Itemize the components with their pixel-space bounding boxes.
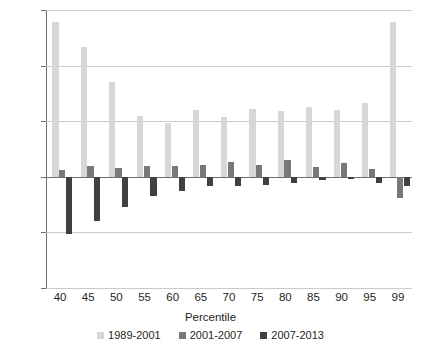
bar	[284, 160, 290, 177]
legend-item[interactable]: 2001-2007	[179, 330, 243, 341]
gridline--50	[46, 232, 412, 233]
bar	[362, 103, 368, 176]
bar	[200, 165, 206, 177]
bar	[228, 162, 234, 176]
x-tick-label: 85	[299, 291, 327, 303]
bar	[249, 109, 255, 177]
bar	[256, 165, 262, 177]
gridline--100	[46, 288, 412, 289]
bar	[87, 166, 93, 177]
bar	[235, 177, 241, 186]
x-tick-label: 60	[159, 291, 187, 303]
gridline-50	[46, 121, 412, 122]
bar	[319, 177, 325, 180]
x-tick-label: 55	[131, 291, 159, 303]
x-tick-label: 90	[328, 291, 356, 303]
bar	[369, 169, 375, 177]
bar	[334, 110, 340, 177]
bar	[306, 107, 312, 177]
legend-swatch-icon	[179, 332, 186, 339]
x-tick-label: 65	[187, 291, 215, 303]
bar	[52, 22, 58, 177]
bar	[348, 177, 354, 179]
legend-swatch-icon	[97, 332, 104, 339]
y-tick-mark	[41, 288, 46, 289]
bar	[221, 117, 227, 177]
bar	[207, 177, 213, 186]
legend-item[interactable]: 2007-2013	[260, 330, 324, 341]
bar	[278, 111, 284, 177]
legend-label: 2001-2007	[190, 330, 243, 341]
bar	[144, 166, 150, 177]
x-tick-label: 45	[74, 291, 102, 303]
bar	[390, 22, 396, 177]
chart-legend: 1989-20012001-20072007-2013	[0, 330, 421, 341]
plot-area	[46, 10, 412, 288]
legend-label: 1989-2001	[108, 330, 161, 341]
bar	[81, 47, 87, 177]
bar	[137, 116, 143, 177]
bar	[165, 123, 171, 176]
bar-chart: 150100500−50−100 40455055606570758085909…	[0, 0, 421, 352]
x-axis-title: Percentile	[0, 311, 421, 323]
y-tick-mark	[41, 177, 46, 178]
bar	[404, 177, 410, 186]
bar	[122, 177, 128, 207]
y-tick-mark	[41, 232, 46, 233]
x-tick-label: 95	[356, 291, 384, 303]
axis-frame	[46, 10, 412, 288]
gridline-0	[46, 177, 412, 178]
bar	[376, 177, 382, 184]
x-tick-label: 75	[243, 291, 271, 303]
x-tick-label: 50	[102, 291, 130, 303]
y-tick-mark	[41, 66, 46, 67]
bar	[150, 177, 156, 196]
bar	[193, 110, 199, 177]
y-tick-mark	[41, 121, 46, 122]
bar	[115, 168, 121, 177]
gridline-100	[46, 66, 412, 67]
x-tick-label: 70	[215, 291, 243, 303]
legend-swatch-icon	[260, 332, 267, 339]
x-tick-label: 40	[46, 291, 74, 303]
legend-item[interactable]: 1989-2001	[97, 330, 161, 341]
x-tick-label: 99	[384, 291, 412, 303]
bar	[263, 177, 269, 185]
bar	[291, 177, 297, 184]
bar	[94, 177, 100, 221]
bar	[341, 163, 347, 176]
x-tick-label: 80	[271, 291, 299, 303]
bar	[66, 177, 72, 234]
gridline-150	[46, 10, 412, 11]
y-tick-mark	[41, 10, 46, 11]
bar	[179, 177, 185, 191]
bar	[313, 167, 319, 177]
bar	[109, 82, 115, 177]
bar	[59, 170, 65, 177]
bar	[172, 166, 178, 177]
legend-label: 2007-2013	[271, 330, 324, 341]
bar	[397, 177, 403, 198]
